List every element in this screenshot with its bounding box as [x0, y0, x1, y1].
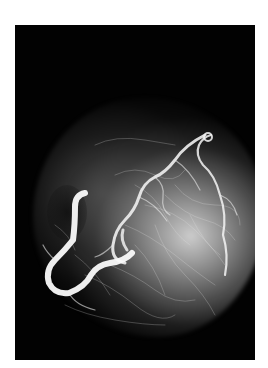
vessel-network [15, 25, 255, 360]
angiogram-image [15, 25, 255, 360]
